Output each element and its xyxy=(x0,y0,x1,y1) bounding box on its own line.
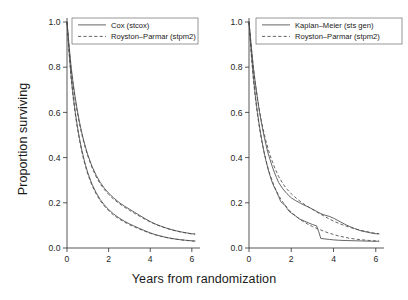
y-tick-label: 0.0 xyxy=(49,243,61,253)
x-tick-label: 4 xyxy=(331,254,336,264)
survival-curve xyxy=(67,22,195,241)
x-tick-label: 2 xyxy=(106,254,111,264)
x-tick-label: 4 xyxy=(148,254,153,264)
survival-curve xyxy=(67,22,195,234)
panel-left-cox: 0.00.20.40.60.81.00246Cox (stcox)Royston… xyxy=(0,0,210,300)
y-tick-label: 0.6 xyxy=(231,108,243,118)
x-tick-label: 6 xyxy=(189,254,194,264)
survival-curve xyxy=(249,22,379,241)
plot-area-right: 0.00.20.40.60.81.00246Kaplan–Meier (sts … xyxy=(198,0,408,300)
y-tick-label: 1.0 xyxy=(231,17,243,27)
y-tick-label: 0.4 xyxy=(231,153,243,163)
plot-area-left: 0.00.20.40.60.81.00246Cox (stcox)Royston… xyxy=(0,0,210,300)
legend-label: Cox (stcox) xyxy=(111,21,150,30)
y-tick-label: 0.4 xyxy=(49,153,61,163)
figure-root: 0.00.20.40.60.81.00246Cox (stcox)Royston… xyxy=(0,0,408,300)
x-axis-title: Years from randomization xyxy=(0,272,408,286)
y-tick-label: 0.8 xyxy=(231,62,243,72)
y-tick-label: 0.2 xyxy=(231,198,243,208)
y-tick-label: 0.2 xyxy=(49,198,61,208)
y-tick-label: 0.8 xyxy=(49,62,61,72)
survival-curve xyxy=(67,22,195,241)
panel-right-km: 0.00.20.40.60.81.00246Kaplan–Meier (sts … xyxy=(198,0,408,300)
survival-curve xyxy=(249,22,379,234)
x-tick-label: 2 xyxy=(289,254,294,264)
y-tick-label: 0.0 xyxy=(231,243,243,253)
legend-label: Royston–Parmar (stpm2) xyxy=(111,32,196,41)
y-axis-title: Proportion surviving xyxy=(16,54,30,224)
survival-curve xyxy=(67,22,195,234)
legend-label: Royston–Parmar (stpm2) xyxy=(295,32,380,41)
survival-curve xyxy=(249,22,379,241)
legend-label: Kaplan–Meier (sts gen) xyxy=(295,21,374,30)
x-tick-label: 0 xyxy=(65,254,70,264)
x-tick-label: 0 xyxy=(247,254,252,264)
x-tick-label: 6 xyxy=(373,254,378,264)
survival-curve xyxy=(249,22,379,234)
y-tick-label: 0.6 xyxy=(49,108,61,118)
y-tick-label: 1.0 xyxy=(49,17,61,27)
